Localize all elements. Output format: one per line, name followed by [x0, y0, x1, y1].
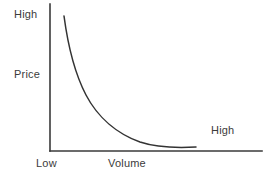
y-axis-title: Price [14, 68, 40, 80]
x-axis-high-label: High [211, 124, 234, 136]
x-axis-low-label: Low [36, 157, 57, 169]
y-axis-high-label: High [14, 8, 37, 20]
price-volume-chart: High Price High Low Volume [0, 0, 268, 177]
price-volume-curve [64, 16, 196, 147]
chart-canvas [0, 0, 268, 177]
x-axis-title: Volume [108, 157, 146, 169]
